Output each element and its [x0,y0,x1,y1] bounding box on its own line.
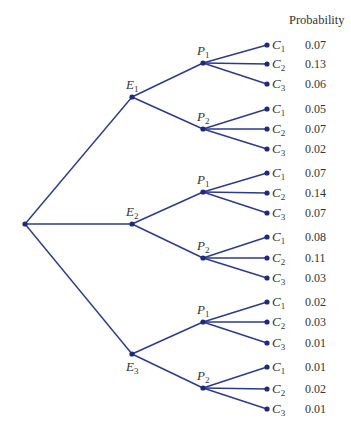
probability-value: 0.11 [305,251,326,265]
edge-P2-to-C3 [203,388,267,409]
probability-value: 0.07 [305,38,326,52]
edge-P1-to-C1 [203,45,267,63]
edge-P1-to-C2 [203,192,267,193]
probability-value: 0.03 [305,271,326,285]
probability-value: 0.03 [305,315,326,329]
label-E3: E3 [125,359,139,376]
node-C2 [264,126,269,131]
probability-value: 0.07 [305,122,326,136]
edge-E1-to-P2 [132,97,203,129]
root-node [22,221,27,226]
tree-edges [25,45,267,409]
label-E2: E2 [125,204,138,221]
label-C3: C3 [272,141,286,158]
probability-value: 0.13 [305,57,326,71]
probability-value: 0.07 [305,206,326,220]
node-C2 [264,61,269,66]
label-C2: C2 [272,250,285,267]
probability-value: 0.06 [305,77,326,91]
label-C1: C1 [272,101,285,118]
node-C3 [264,146,269,151]
label-E1: E1 [125,77,138,94]
label-C1: C1 [272,294,285,311]
edge-E3-to-P1 [132,322,203,354]
node-C1 [264,364,269,369]
probability-value: 0.01 [305,402,326,416]
node-C2 [264,386,269,391]
label-C3: C3 [272,205,286,222]
edge-P1-to-C2 [203,63,267,64]
node-C3 [264,340,269,345]
node-C2 [264,190,269,195]
label-C2: C2 [272,185,285,202]
label-C1: C1 [272,359,285,376]
edge-P1-to-C1 [203,173,267,192]
node-E3 [129,351,134,356]
edge-P2-to-C2 [203,388,267,389]
probability-value: 0.01 [305,360,326,374]
label-C3: C3 [272,76,286,93]
node-C3 [264,406,269,411]
edge-P2-to-C3 [203,258,267,278]
probability-value: 0.02 [305,295,326,309]
node-P2 [200,385,205,390]
node-P2 [200,255,205,260]
label-P2: P2 [196,238,209,255]
tree-labels: E1P1C10.07C20.13C30.06P2C10.05C20.07C30.… [125,37,326,418]
label-C2: C2 [272,56,285,73]
node-P1 [200,319,205,324]
edge-P2-to-C1 [203,237,267,258]
probability-value: 0.01 [305,336,326,350]
edge-E2-to-P1 [132,192,203,224]
label-C2: C2 [272,314,285,331]
node-C1 [264,42,269,47]
edge-E3-to-P2 [132,354,203,388]
edge-P2-to-C1 [203,367,267,388]
edge-root-to-E1 [25,97,132,224]
edge-E1-to-P1 [132,63,203,97]
label-C2: C2 [272,381,285,398]
edge-P2-to-C1 [203,109,267,129]
label-P1: P1 [196,172,209,189]
edge-root-to-E3 [25,224,132,354]
label-C1: C1 [272,165,285,182]
edge-P1-to-C1 [203,302,267,322]
node-C3 [264,210,269,215]
label-C3: C3 [272,335,286,352]
probability-value: 0.02 [305,142,326,156]
label-C1: C1 [272,229,285,246]
node-C1 [264,106,269,111]
edge-P1-to-C3 [203,322,267,343]
node-C2 [264,319,269,324]
node-C1 [264,299,269,304]
probability-column-header: Probability [289,13,345,27]
edge-P1-to-C3 [203,192,267,213]
label-P2: P2 [196,109,209,126]
edge-P2-to-C3 [203,129,267,149]
label-C3: C3 [272,270,286,287]
label-C3: C3 [272,401,286,418]
node-C3 [264,81,269,86]
label-P1: P1 [196,302,209,319]
node-P1 [200,189,205,194]
probability-tree-diagram: Probability E1P1C10.07C20.13C30.06P2C10.… [0,0,351,431]
label-C2: C2 [272,121,285,138]
probability-value: 0.05 [305,102,326,116]
probability-value: 0.07 [305,166,326,180]
node-E1 [129,94,134,99]
label-P1: P1 [196,43,209,60]
edge-E2-to-P2 [132,224,203,258]
probability-value: 0.08 [305,230,326,244]
probability-value: 0.02 [305,382,326,396]
edge-P1-to-C3 [203,63,267,84]
node-C2 [264,255,269,260]
label-C1: C1 [272,37,285,54]
node-P2 [200,126,205,131]
label-P2: P2 [196,368,209,385]
probability-value: 0.14 [305,186,326,200]
tree-nodes [22,42,269,411]
node-C1 [264,170,269,175]
node-P1 [200,60,205,65]
node-E2 [129,221,134,226]
node-C1 [264,234,269,239]
